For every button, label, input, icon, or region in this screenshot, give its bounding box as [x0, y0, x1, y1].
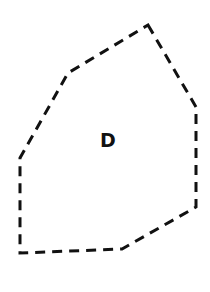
region-label: D — [100, 129, 116, 151]
diagram-canvas: D — [0, 0, 210, 292]
